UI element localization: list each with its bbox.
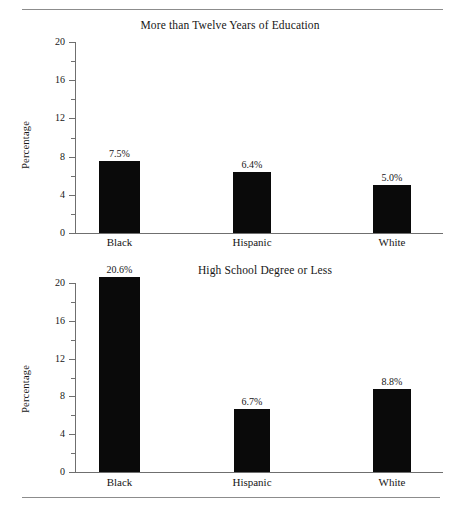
x-axis-line xyxy=(75,233,443,234)
y-tick-label: 12 xyxy=(55,113,65,123)
y-tick-minor xyxy=(71,453,76,454)
bar[interactable] xyxy=(99,161,140,233)
x-category-label: White xyxy=(338,236,446,248)
y-tick-major xyxy=(69,472,76,473)
y-tick-minor xyxy=(71,138,76,139)
y-tick-minor xyxy=(71,340,76,341)
chart-title: More than Twelve Years of Education xyxy=(0,19,460,31)
y-tick-major xyxy=(69,157,76,158)
bar[interactable] xyxy=(234,409,270,472)
y-tick-major xyxy=(69,321,76,322)
y-tick-major xyxy=(69,396,76,397)
bar[interactable] xyxy=(233,172,271,233)
bar[interactable] xyxy=(99,277,140,472)
y-tick-minor xyxy=(71,302,76,303)
chart-high-school-degree-or-less: High School Degree or Less Percentage 04… xyxy=(0,258,460,498)
y-tick-major xyxy=(69,195,76,196)
y-tick-major xyxy=(69,434,76,435)
y-tick-minor xyxy=(71,378,76,379)
bar-value-label: 6.4% xyxy=(213,159,291,170)
y-tick-label: 4 xyxy=(60,190,65,200)
y-tick-label: 16 xyxy=(55,316,65,326)
y-tick-major xyxy=(69,359,76,360)
y-tick-major xyxy=(69,42,76,43)
x-category-label: Black xyxy=(64,236,175,248)
x-axis-line xyxy=(75,472,443,473)
bar-value-label: 7.5% xyxy=(79,148,160,159)
y-tick-label: 16 xyxy=(55,75,65,85)
y-tick-label: 20 xyxy=(55,278,65,288)
y-tick-label: 12 xyxy=(55,354,65,364)
y-tick-minor xyxy=(71,61,76,62)
y-tick-major xyxy=(69,118,76,119)
plot-area: 04812162020.6%6.7%8.8% xyxy=(75,283,443,472)
x-category-label: Hispanic xyxy=(199,476,305,488)
bar-value-label: 20.6% xyxy=(79,264,160,275)
y-tick-minor xyxy=(71,415,76,416)
chart-more-than-twelve-years: More than Twelve Years of Education Perc… xyxy=(0,14,460,260)
bar-value-label: 6.7% xyxy=(214,396,290,407)
bar[interactable] xyxy=(373,185,411,233)
x-category-label: Black xyxy=(64,476,175,488)
figure-container: More than Twelve Years of Education Perc… xyxy=(0,0,460,512)
y-tick-major xyxy=(69,233,76,234)
bar-value-label: 8.8% xyxy=(353,376,431,387)
y-tick-minor xyxy=(71,214,76,215)
bar[interactable] xyxy=(373,389,411,472)
y-tick-minor xyxy=(71,99,76,100)
y-tick-major xyxy=(69,80,76,81)
y-tick-label: 4 xyxy=(60,429,65,439)
y-tick-label: 8 xyxy=(60,152,65,162)
y-axis-label: Percentage xyxy=(20,121,31,169)
plot-area: 0481216207.5%6.4%5.0% xyxy=(75,42,443,233)
y-tick-label: 8 xyxy=(60,391,65,401)
y-axis-label: Percentage xyxy=(20,365,31,413)
figure-top-rule xyxy=(22,9,443,10)
y-tick-label: 20 xyxy=(55,37,65,47)
y-tick-major xyxy=(69,283,76,284)
x-category-label: Hispanic xyxy=(198,236,306,248)
bar-value-label: 5.0% xyxy=(353,172,431,183)
x-category-label: White xyxy=(338,476,446,488)
y-tick-minor xyxy=(71,176,76,177)
